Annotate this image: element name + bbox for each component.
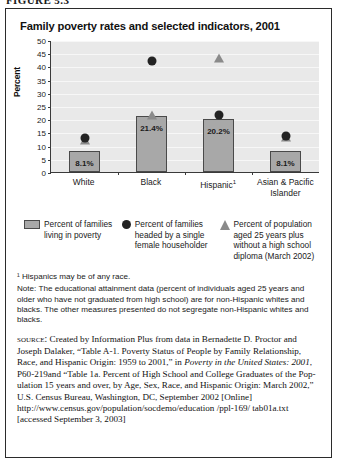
y-axis-tick-label: 0 [42,169,46,178]
y-axis-tick [48,107,51,108]
footnote-hispanics: ¹ Hispanics may be of any race. [17,272,321,282]
source-italic-title: Poverty in the United States: 2001 [184,357,310,367]
y-axis-tick-label: 40 [37,63,46,72]
bar-value-label: 8.1% [276,159,294,168]
y-axis-tick [48,41,51,42]
legend-item-female-householder: Percent of families headed by a single f… [122,219,220,261]
x-axis-tick-label: White [48,177,119,188]
y-axis-tick-label: 15 [37,129,46,138]
figure-page: FIGURE 5.3 Family poverty rates and sele… [0,0,337,462]
legend-label: Percent of families living in poverty [44,219,122,240]
rect-swatch-icon [24,220,40,229]
gridline [51,94,319,95]
footnote-marker: 1 [233,179,236,185]
gridline [51,81,319,82]
y-axis-tick-label: 25 [37,103,46,112]
figure-source: source: Created by Information Plus from… [17,333,321,425]
x-axis-tick-labels: WhiteBlackHispanic1Asian & Pacific Islan… [50,177,319,203]
y-axis-tick-label: 5 [42,155,46,164]
gridline [51,120,319,121]
x-axis-tick-label: Hispanic1 [183,177,254,190]
y-axis-tick [48,67,51,68]
source-text-part2: , P60-219and “Table 1a. Percent of High … [17,357,316,424]
chart-legend: Percent of families living in poverty Pe… [24,219,321,261]
y-axis-tick [48,173,51,174]
figure-notes: ¹ Hispanics may be of any race. Note: Th… [17,272,321,325]
circle-marker [147,57,156,66]
y-axis-tick [48,81,51,82]
x-axis-tick [252,172,253,175]
figure-frame: Family poverty rates and selected indica… [5,8,332,458]
triangle-marker [147,110,157,119]
chart-title: Family poverty rates and selected indica… [20,20,321,32]
circle-marker [281,132,290,141]
gridline [51,107,319,108]
circle-marker [214,111,223,120]
bar-value-label: 21.4% [140,124,163,133]
figure-number-label: FIGURE 5.3 [6,0,69,6]
gridline [51,147,319,148]
x-axis-tick-label: Asian & Pacific Islander [250,177,321,198]
gridline [51,67,319,68]
bar: 21.4% [136,116,167,172]
y-axis-tick-label: 20 [37,116,46,125]
y-axis-tick [48,120,51,121]
y-axis-tick-label: 50 [37,37,46,46]
legend-label: Percent of families headed by a single f… [135,219,220,251]
circle-swatch-icon [122,220,131,229]
bar: 8.1% [69,151,100,172]
y-axis-tick-label: 30 [37,89,46,98]
bar: 20.2% [203,119,234,172]
x-axis-tick [118,172,119,175]
y-axis-tick [48,147,51,148]
source-label: source: [17,333,47,344]
bar-value-label: 8.1% [75,159,93,168]
x-axis-tick-label: Black [116,177,187,188]
y-axis-tick [48,133,51,134]
gridline [51,54,319,55]
bar: 8.1% [270,151,301,172]
x-axis-tick [185,172,186,175]
y-axis-tick-label: 10 [37,142,46,151]
triangle-swatch-icon [220,220,230,230]
gridline [51,41,319,42]
gridline [51,133,319,134]
triangle-marker [214,54,224,63]
legend-item-poverty: Percent of families living in poverty [24,219,122,261]
y-axis-title: Percent [12,67,22,97]
y-axis-tick [48,160,51,161]
y-axis-tick-label: 45 [37,50,46,59]
circle-marker [80,134,89,143]
y-axis-tick-label: 35 [37,76,46,85]
y-axis-tick-labels: 05101520253035404550 [26,41,46,173]
y-axis-tick [48,54,51,55]
chart-plot: Percent 05101520253035404550 8.1%21.4%20… [18,41,321,191]
plot-area: 8.1%21.4%20.2%8.1% [50,41,319,173]
note-educational-attainment: Note: The educational attainment data (p… [17,284,321,325]
y-axis-tick [48,94,51,95]
legend-label: Percent of population aged 25 years plus… [234,219,322,261]
bar-value-label: 20.2% [207,127,230,136]
legend-item-no-diploma: Percent of population aged 25 years plus… [220,219,322,261]
